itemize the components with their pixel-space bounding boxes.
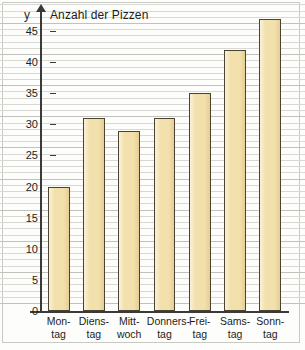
x-tick-label-line1: Sonn- <box>256 315 284 327</box>
bars-group <box>41 8 288 311</box>
bar-dienstag <box>83 118 105 311</box>
bar-shading <box>84 119 104 310</box>
bar-sonntag <box>259 19 281 311</box>
x-axis-line <box>30 311 289 313</box>
x-tick-label-line2: tag <box>76 328 111 341</box>
x-tick-label-line1: Diens- <box>79 315 109 327</box>
x-tick-label-line2: woch <box>112 328 147 341</box>
bar-mittwoch <box>118 131 140 311</box>
y-tick-label: 30 <box>16 118 38 130</box>
x-tick-label-line2: tag <box>182 328 217 341</box>
bar-freitag <box>189 93 211 311</box>
x-tick-label: Mon-tag <box>41 315 76 340</box>
bar-shading <box>49 188 69 310</box>
x-tick-label: Mitt-woch <box>112 315 147 340</box>
bar-chart: y Anzahl der Pizzen 051015202530354045 M… <box>0 0 305 350</box>
bar-shading <box>119 132 139 310</box>
y-tick-label: 10 <box>16 243 38 255</box>
y-tick-label: 20 <box>16 181 38 193</box>
x-tick-label: Sams-tag <box>217 315 252 340</box>
x-tick-label-line1: Frei- <box>189 315 211 327</box>
x-tick-label-line2: tag <box>253 328 288 341</box>
bar-shading <box>190 94 210 310</box>
x-tick-label-line2: tag <box>147 328 182 341</box>
x-tick-label: Diens-tag <box>76 315 111 340</box>
x-tick-label: Sonn-tag <box>253 315 288 340</box>
x-tick-label-line2: tag <box>41 328 76 341</box>
x-tick-label-line1: Mon- <box>47 315 71 327</box>
y-tick-label: 45 <box>16 25 38 37</box>
y-tick-label: 35 <box>16 87 38 99</box>
x-tick-label: Donners-tag <box>147 315 182 340</box>
y-tick-label: 15 <box>16 212 38 224</box>
bar-shading <box>155 119 175 310</box>
bar-shading <box>225 51 245 310</box>
bar-shading <box>260 20 280 310</box>
x-tick-label-line1: Sams- <box>220 315 250 327</box>
y-tick-label: 25 <box>16 149 38 161</box>
y-tick-label: 0 <box>16 305 38 317</box>
x-tick-label: Frei-tag <box>182 315 217 340</box>
y-tick-label: 5 <box>16 274 38 286</box>
y-axis-tick-labels: 051015202530354045 <box>12 0 38 350</box>
bar-samstag <box>224 50 246 311</box>
y-tick-label: 40 <box>16 56 38 68</box>
bar-donnerstag <box>154 118 176 311</box>
x-tick-label-line1: Mitt- <box>119 315 139 327</box>
x-tick-label-line2: tag <box>217 328 252 341</box>
bar-montag <box>48 187 70 311</box>
